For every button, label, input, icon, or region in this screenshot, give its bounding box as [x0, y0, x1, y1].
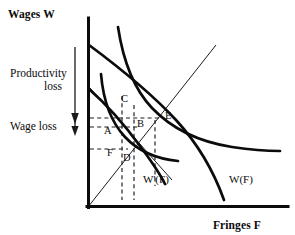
productivity-loss-arrow	[71, 47, 79, 124]
economics-diagram: Wages W Fringes F Productivity loss Wage…	[0, 0, 295, 235]
productivity-loss-label-line2: loss	[44, 81, 62, 93]
point-label-e: E	[165, 111, 171, 122]
curve-label-w-prime-f: W'(F)	[143, 174, 169, 185]
productivity-loss-label-line1: Productivity	[10, 68, 67, 80]
point-label-b: B	[137, 119, 144, 130]
diagram-canvas	[0, 0, 295, 235]
curve-label-w-f: W(F)	[229, 174, 253, 185]
wage-loss-label: Wage loss	[10, 121, 57, 133]
point-label-c: C	[121, 94, 128, 105]
point-label-d: D	[123, 153, 131, 164]
wage-loss-arrow	[71, 120, 78, 136]
y-axis-title: Wages W	[8, 9, 55, 21]
x-axis-title: Fringes F	[213, 220, 261, 232]
point-label-a: A	[104, 126, 112, 137]
point-label-f: F	[107, 148, 113, 159]
